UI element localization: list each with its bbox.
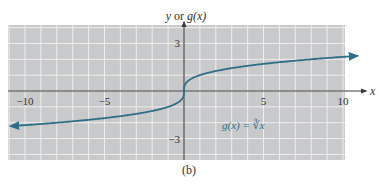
x-tick-label: 10	[338, 95, 350, 107]
x-tick-label: −5	[99, 95, 111, 107]
cube-root-chart: −10−55103−3 y or g(x) x g(x) = ∛x	[0, 0, 378, 184]
function-annotation: g(x) = ∛x	[222, 118, 265, 132]
figure-caption: (b)	[0, 163, 378, 178]
y-tick-label: 3	[175, 37, 181, 49]
y-tick-label: −3	[168, 133, 180, 145]
x-axis-label: x	[369, 84, 376, 98]
x-tick-label: −10	[16, 95, 34, 107]
y-axis-label: y or g(x)	[165, 9, 207, 23]
x-tick-label: 5	[261, 95, 267, 107]
